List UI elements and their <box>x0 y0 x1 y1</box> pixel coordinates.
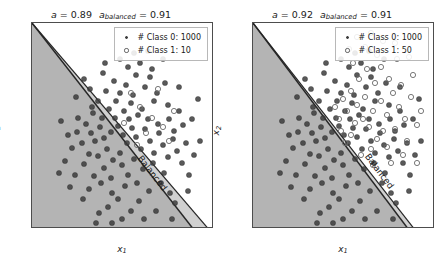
filled-circle-icon <box>340 36 354 39</box>
panel-right-title: a = 0.92abalanced = 0.91 <box>221 9 443 21</box>
panel-left-title: a = 0.89abalanced = 0.91 <box>0 9 222 21</box>
legend-label-class1: # Class 1: 50 <box>354 45 411 56</box>
metric-a-symbol: a <box>272 9 278 20</box>
legend-item-class0: # Class 0: 1000 <box>119 32 201 43</box>
metric-a-symbol: a <box>51 9 57 20</box>
metric-a-value: 0.89 <box>71 9 92 20</box>
yaxis-label-left: x2 <box>0 126 2 136</box>
legend-label-class1: # Class 1: 10 <box>133 45 190 56</box>
hollow-circle-icon <box>340 48 354 52</box>
legend-right: # Class 0: 1000 # Class 1: 50 <box>335 27 429 61</box>
xaxis-label-right: x1 <box>252 244 434 255</box>
yaxis-label-right: x2 <box>211 126 222 136</box>
legend-item-class1: # Class 1: 50 <box>340 45 422 56</box>
metric-abal-value: 0.91 <box>371 9 392 20</box>
figure-container: a = 0.89abalanced = 0.91 <box>0 0 443 264</box>
panel-left: a = 0.89abalanced = 0.91 <box>0 0 222 264</box>
legend-label-class0: # Class 0: 1000 <box>133 32 201 43</box>
metric-abal-value: 0.91 <box>150 9 171 20</box>
metric-abal-subscript: balanced <box>105 13 136 21</box>
legend-item-class0: # Class 0: 1000 <box>340 32 422 43</box>
xaxis-label-left: x1 <box>31 244 213 255</box>
panel-right: a = 0.92abalanced = 0.91 <box>221 0 443 264</box>
plot-area-right: Balanced 8 6 4 2 0 −2 −4 −4 −2 0 2 <box>252 22 434 228</box>
metric-a-value: 0.92 <box>292 9 313 20</box>
eq-1: = <box>60 9 68 20</box>
plot-area-left: Balanced 8 6 4 2 0 −2 −4 −4 −2 0 2 <box>31 22 213 228</box>
filled-circle-icon <box>119 36 133 39</box>
legend-item-class1: # Class 1: 10 <box>119 45 201 56</box>
eq-1: = <box>281 9 289 20</box>
hollow-circle-icon <box>119 48 133 52</box>
legend-left: # Class 0: 1000 # Class 1: 10 <box>114 27 208 61</box>
eq-2: = <box>139 9 147 20</box>
eq-2: = <box>360 9 368 20</box>
legend-label-class0: # Class 0: 1000 <box>354 32 422 43</box>
metric-abal-subscript: balanced <box>326 13 357 21</box>
